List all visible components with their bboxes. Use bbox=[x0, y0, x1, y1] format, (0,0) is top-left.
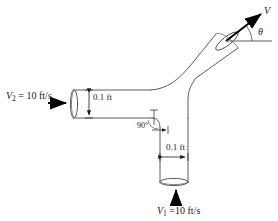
inlet2-velocity-label: V2 = 10 ft/s bbox=[6, 91, 52, 103]
vertical-pipe-diameter-label: 0.1 ft bbox=[166, 143, 185, 152]
theta-angle-arc bbox=[246, 26, 252, 42]
inlet1-velocity-label: V1 =10 ft/s bbox=[157, 206, 200, 218]
outlet-pipe-left-edge bbox=[190, 34, 216, 66]
vertical-pipe-dimension bbox=[160, 153, 188, 161]
outlet-velocity-arrow bbox=[226, 14, 261, 41]
outlet-angle-label: θ bbox=[258, 27, 263, 37]
inlet1-velocity-value: =10 ft/s bbox=[167, 205, 200, 216]
junction-upper-fillet bbox=[150, 66, 190, 90]
horizontal-pipe-diameter-label: 0.1 ft bbox=[93, 93, 112, 102]
inlet2-velocity-value: = 10 ft/s bbox=[16, 90, 52, 101]
junction-angle-label: 90° bbox=[137, 122, 148, 130]
pipe-outline-group bbox=[70, 29, 240, 186]
angle-arc-90 bbox=[148, 120, 158, 129]
junction-lower-fillet bbox=[152, 118, 160, 128]
outlet-pipe-right-edge bbox=[188, 48, 238, 118]
horizontal-pipe-dimension bbox=[85, 90, 93, 118]
junction-angle-indicator bbox=[148, 110, 168, 134]
pipe-junction-diagram bbox=[0, 0, 278, 221]
outlet-velocity-label: V bbox=[264, 6, 270, 16]
